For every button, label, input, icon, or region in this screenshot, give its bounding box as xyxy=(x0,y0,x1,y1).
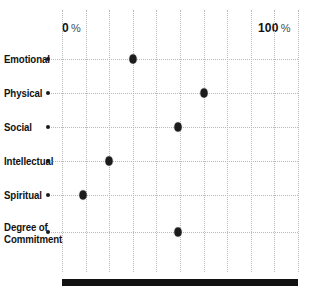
category-tick-bullet xyxy=(46,125,50,129)
horizontal-gridline xyxy=(48,93,298,94)
dot-plot-chart: 0% 100% Emotional Physical Social Intell… xyxy=(0,0,314,287)
data-point-marker[interactable] xyxy=(80,191,87,200)
category-tick-bullet xyxy=(46,159,50,163)
category-tick-bullet xyxy=(46,230,50,234)
category-label-line: Spiritual xyxy=(4,189,42,201)
category-label-line: Degree of xyxy=(4,221,48,233)
data-point-marker[interactable] xyxy=(200,89,207,98)
category-label-emotional: Emotional xyxy=(4,53,52,65)
category-label-degree-of-commitment: Degree of Commitment xyxy=(4,221,52,245)
horizontal-gridline xyxy=(48,232,298,233)
category-tick-bullet xyxy=(46,57,50,61)
vertical-gridline xyxy=(298,10,299,272)
category-label-line: Emotional xyxy=(4,53,50,65)
horizontal-gridline xyxy=(48,127,298,128)
bottom-rule-bar xyxy=(62,279,298,286)
category-label-line: Commitment xyxy=(4,233,52,245)
category-label-physical: Physical xyxy=(4,87,52,99)
horizontal-gridline xyxy=(48,161,298,162)
category-label-line: Physical xyxy=(4,87,42,99)
category-label-intellectual: Intellectual xyxy=(4,155,52,167)
category-tick-bullet xyxy=(46,91,50,95)
category-label-social: Social xyxy=(4,121,52,133)
data-point-marker[interactable] xyxy=(174,123,181,132)
data-point-marker[interactable] xyxy=(129,55,136,64)
category-label-line: Social xyxy=(4,121,32,133)
category-label-spiritual: Spiritual xyxy=(4,189,52,201)
horizontal-gridline xyxy=(48,59,298,60)
category-tick-bullet xyxy=(46,193,50,197)
plot-area xyxy=(62,10,298,272)
data-point-marker[interactable] xyxy=(106,157,113,166)
data-point-marker[interactable] xyxy=(174,228,181,237)
